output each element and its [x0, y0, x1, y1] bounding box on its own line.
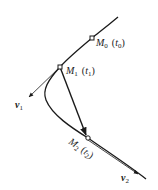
point-m2-marker: [86, 136, 90, 140]
label-v2: v2: [121, 172, 129, 185]
label-v1: v1: [15, 99, 23, 112]
point-m1-marker: [58, 65, 62, 69]
label-m2: M2(t2): [65, 135, 96, 162]
point-m0-marker: [90, 36, 94, 40]
label-m0: M0(t0): [95, 37, 125, 50]
diagram-canvas: M0(t0) M1(t1) M2(t2) v1 v2: [0, 0, 158, 190]
velocity-v2-arrow: [88, 140, 138, 174]
label-m1: M1(t1): [65, 65, 95, 78]
chord-m1-m2-arrow: [60, 67, 86, 135]
